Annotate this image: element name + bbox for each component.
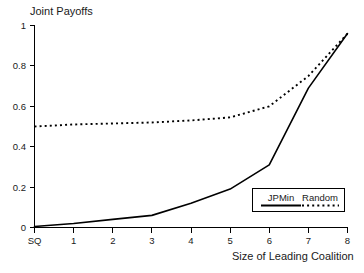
x-tick-label-2: 2 <box>110 235 115 246</box>
chart-plot-area: 0 0.2 0.4 0.6 0.8 1 SQ 1 2 3 4 <box>0 0 364 273</box>
y-tick-label-2: 0.4 <box>13 141 26 152</box>
legend-label-random: Random <box>302 192 338 203</box>
y-tick-label-5: 1 <box>21 20 26 31</box>
x-tick-label-8: 8 <box>345 235 350 246</box>
x-tick-label-7: 7 <box>306 235 311 246</box>
y-tick-label-4: 0.8 <box>13 60 26 71</box>
x-tick-label-0: SQ <box>28 235 42 246</box>
y-tick-label-0: 0 <box>21 222 26 233</box>
x-tick-label-3: 3 <box>149 235 154 246</box>
x-tick-label-5: 5 <box>227 235 232 246</box>
chart-screenshot: Joint Payoffs 0 0.2 0.4 0.6 0.8 1 SQ 1 <box>0 0 364 273</box>
y-axis-ticks: 0 0.2 0.4 0.6 0.8 1 <box>13 20 35 233</box>
x-axis-title: Size of Leading Coalition <box>232 250 354 263</box>
y-tick-label-1: 0.2 <box>13 182 26 193</box>
series-line-random <box>35 34 348 127</box>
chart-legend[interactable]: JPMin Random <box>253 189 345 212</box>
x-tick-label-6: 6 <box>267 235 272 246</box>
x-axis-ticks: SQ 1 2 3 4 5 6 7 8 <box>28 228 351 247</box>
legend-label-jpmin: JPMin <box>268 192 294 203</box>
x-tick-label-4: 4 <box>188 235 193 246</box>
x-tick-label-1: 1 <box>71 235 76 246</box>
y-tick-label-3: 0.6 <box>13 101 26 112</box>
